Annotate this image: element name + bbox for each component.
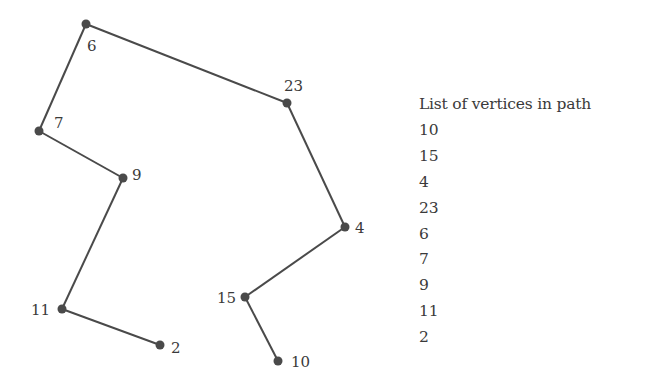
path-vertices <box>35 20 350 366</box>
vertex-list-item: 7 <box>419 247 591 273</box>
vertex-10 <box>274 357 283 366</box>
vertex-label-9: 9 <box>132 166 142 184</box>
vertex-list-item: 4 <box>419 170 591 196</box>
vertex-list-item: 2 <box>419 325 591 351</box>
vertex-23 <box>283 99 292 108</box>
vertex-11 <box>58 305 67 314</box>
vertex-label-2: 2 <box>171 339 181 357</box>
edge-15-4 <box>245 227 345 297</box>
vertex-9 <box>119 174 128 183</box>
edge-11-2 <box>62 309 160 345</box>
vertex-list-item: 10 <box>419 118 591 144</box>
vertex-list-item: 11 <box>419 299 591 325</box>
vertex-label-11: 11 <box>31 301 50 319</box>
edge-9-11 <box>62 178 123 309</box>
vertex-list-item: 6 <box>419 222 591 248</box>
vertex-list: List of vertices in path 10 15 4 23 6 7 … <box>419 92 591 351</box>
edge-7-9 <box>39 131 123 178</box>
vertex-labels: 6237941511210 <box>31 37 365 371</box>
vertex-label-4: 4 <box>355 219 365 237</box>
vertex-label-7: 7 <box>54 114 64 132</box>
vertex-label-15: 15 <box>217 289 236 307</box>
edge-10-15 <box>245 297 278 361</box>
vertex-list-item: 9 <box>419 273 591 299</box>
vertex-list-title: List of vertices in path <box>419 92 591 118</box>
edge-4-23 <box>287 103 345 227</box>
vertex-list-item: 23 <box>419 196 591 222</box>
path-edges <box>39 24 345 361</box>
vertex-7 <box>35 127 44 136</box>
vertex-15 <box>241 293 250 302</box>
edge-23-6 <box>86 24 287 103</box>
vertex-list-item: 15 <box>419 144 591 170</box>
vertex-2 <box>156 341 165 350</box>
vertex-6 <box>82 20 91 29</box>
vertex-label-6: 6 <box>87 37 97 55</box>
vertex-4 <box>341 223 350 232</box>
vertex-label-10: 10 <box>291 353 310 371</box>
vertex-label-23: 23 <box>284 77 303 95</box>
